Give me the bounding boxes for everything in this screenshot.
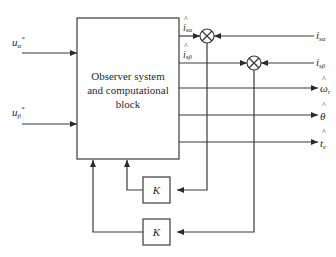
block-label-line-2: and computational [87,84,169,96]
gain-alpha-label: K [152,184,161,196]
sum-alpha-plus-sign: + [203,35,206,40]
input-u-alpha-label: uα* [12,35,25,50]
theta-hat-label: θ [320,110,326,122]
block-label-line-1: Observer system [91,70,165,82]
i-s-beta-label: isβ [316,56,326,70]
sum-beta-plus-sign: + [250,62,253,67]
theta-hat-caret: ^ [322,101,326,110]
omega-r-hat-label: ωr [320,82,331,96]
i-s-alpha-label: isα [316,29,326,43]
input-u-beta-label: uβ* [12,105,25,120]
gain-alpha-to-block-line [127,160,143,190]
error-alpha-feedback-line [177,43,207,190]
error-beta-feedback-line [177,70,254,232]
observer-block-diagram: Observer system and computational block … [0,0,336,257]
gain-beta-to-block-line [93,160,143,232]
gain-beta-label: K [152,226,161,238]
block-label-line-3: block [116,98,141,110]
summing-junction-alpha: + - [200,29,214,43]
t-e-hat-caret: ^ [322,128,326,137]
t-e-hat-label: te [320,137,326,151]
summing-junction-beta: + - [247,56,261,70]
